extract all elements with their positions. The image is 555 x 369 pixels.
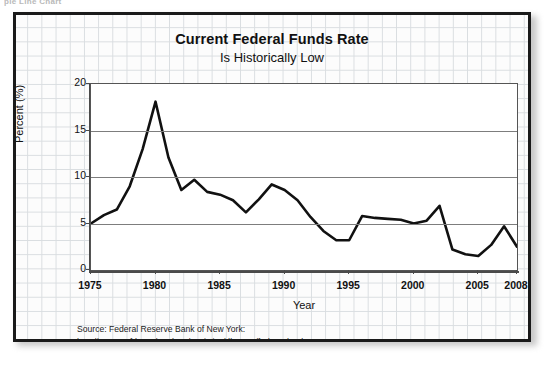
y-tick-label-20: 20 <box>60 76 86 88</box>
x-tick-label-1975: 1975 <box>78 279 101 291</box>
x-tick-mark-1995 <box>348 270 349 274</box>
gridline-y-15 <box>91 131 517 132</box>
x-tick-label-2008: 2008 <box>504 279 527 291</box>
x-tick-label-1995: 1995 <box>336 279 359 291</box>
x-tick-mark-2005 <box>477 270 478 274</box>
source-line-1: Source: Federal Reserve Bank of New York… <box>77 323 303 336</box>
y-tick-label-10: 10 <box>60 169 86 181</box>
chart-subtitle: Is Historically Low <box>16 50 528 65</box>
federal-funds-rate-line <box>91 102 517 256</box>
y-axis-title: Percent (%) <box>13 85 25 143</box>
x-tick-mark-2008 <box>516 270 517 274</box>
x-tick-label-1980: 1980 <box>143 279 166 291</box>
x-tick-mark-1990 <box>284 270 285 274</box>
x-tick-mark-1980 <box>155 270 156 274</box>
x-tick-label-2000: 2000 <box>401 279 424 291</box>
plot-area <box>90 83 518 271</box>
y-tick-label-0: 0 <box>60 262 86 274</box>
source-note: Source: Federal Reserve Bank of New York… <box>77 323 303 342</box>
y-tick-label-5: 5 <box>60 216 86 228</box>
x-tick-mark-2000 <box>413 270 414 274</box>
x-axis-ticks: 19751980198519901995200020052008 <box>90 273 518 297</box>
y-tick-label-15: 15 <box>60 123 86 135</box>
y-axis-ticks: 05101520 <box>56 83 86 272</box>
x-tick-label-1990: 1990 <box>272 279 295 291</box>
x-axis-title: Year <box>90 299 518 311</box>
x-tick-mark-1975 <box>90 270 91 274</box>
gridline-y-5 <box>91 224 517 225</box>
x-tick-label-1985: 1985 <box>207 279 230 291</box>
x-tick-label-2005: 2005 <box>466 279 489 291</box>
page-caption: ple Line Chart <box>4 0 62 6</box>
figure-frame: Current Federal Funds Rate Is Historical… <box>13 12 531 342</box>
source-line-2: http://www.ny.frb.org/markets/statistics… <box>77 336 303 343</box>
chart-title: Current Federal Funds Rate <box>16 31 528 47</box>
x-tick-mark-1985 <box>219 270 220 274</box>
gridline-y-10 <box>91 177 517 178</box>
